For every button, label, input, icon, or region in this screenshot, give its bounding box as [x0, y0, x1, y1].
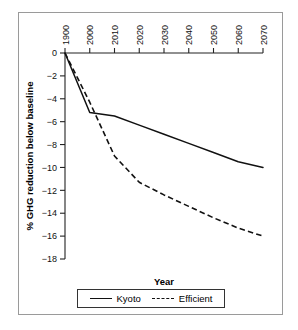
x-axis-ticks: [65, 48, 263, 53]
y-tick-label: 0: [52, 48, 57, 58]
y-tick-label: −10: [42, 163, 57, 173]
x-tick-label: 1900: [61, 25, 71, 45]
y-tick-label: −16: [42, 231, 57, 241]
figure-container: 190020002010202020302040205020602070 0−2…: [0, 0, 298, 330]
x-axis-title: Year: [154, 276, 174, 287]
x-tick-label: 2030: [160, 25, 170, 45]
y-axis-title: % GHG reduction below baseline: [24, 82, 35, 231]
legend-swatch-solid-icon: [90, 298, 112, 299]
x-tick-label: 2060: [234, 25, 244, 45]
series-group: [65, 53, 263, 236]
legend-item-efficient: Efficient: [152, 293, 213, 304]
y-axis-tick-labels: 0−2−4−6−8−10−12−14−16−18: [42, 48, 57, 264]
series-line-kyoto: [65, 53, 263, 167]
chart-legend: Kyoto Efficient: [77, 289, 225, 308]
x-tick-label: 2000: [85, 25, 95, 45]
y-tick-label: −14: [42, 208, 57, 218]
y-tick-label: −18: [42, 254, 57, 264]
x-tick-label: 2010: [110, 25, 120, 45]
x-tick-label: 2050: [209, 25, 219, 45]
legend-label-efficient: Efficient: [179, 293, 213, 304]
series-line-efficient: [65, 53, 263, 236]
figure-frame: 190020002010202020302040205020602070 0−2…: [18, 12, 283, 315]
x-tick-label: 2070: [259, 25, 269, 45]
x-axis-tick-labels: 190020002010202020302040205020602070: [61, 25, 269, 45]
legend-label-kyoto: Kyoto: [117, 293, 141, 304]
y-axis-ticks: [60, 53, 65, 259]
legend-swatch-dashed-icon: [152, 298, 174, 299]
legend-item-kyoto: Kyoto: [90, 293, 141, 304]
y-tick-label: −4: [47, 94, 57, 104]
line-chart: 190020002010202020302040205020602070 0−2…: [19, 13, 282, 314]
x-tick-label: 2040: [184, 25, 194, 45]
x-tick-label: 2020: [135, 25, 145, 45]
y-tick-label: −6: [47, 117, 57, 127]
y-tick-label: −12: [42, 186, 57, 196]
y-tick-label: −8: [47, 140, 57, 150]
y-tick-label: −2: [47, 71, 57, 81]
